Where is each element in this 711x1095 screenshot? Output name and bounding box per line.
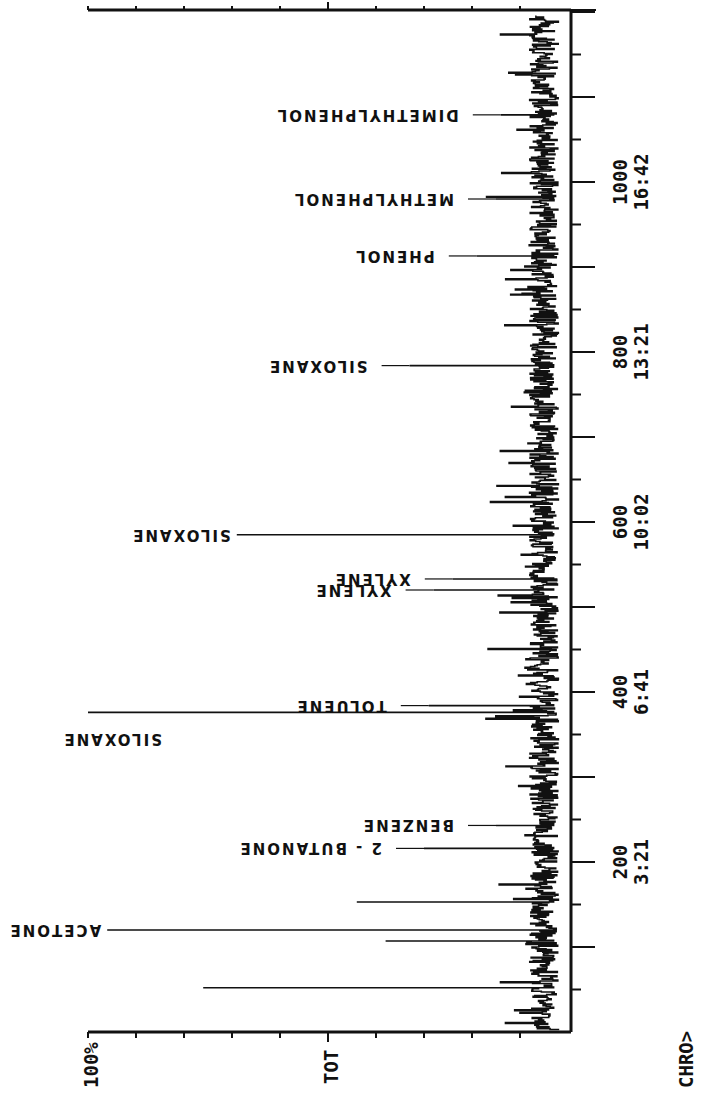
scan-tick-label: 200 — [609, 845, 631, 879]
chromatogram-chart: ACETONE2 - BUTANONEBENZENESILOXANETOLUEN… — [0, 0, 711, 1095]
peak-label: SILOXANE — [62, 730, 162, 748]
intensity-axis-ticks — [88, 2, 520, 1042]
peak-label: SILOXANE — [268, 357, 368, 375]
scan-tick-label: 400 — [609, 675, 631, 709]
chart-title: CHRO> — [675, 1031, 697, 1088]
time-tick-label: 10:02 — [630, 493, 652, 550]
peak-labels: ACETONE2 - BUTANONEBENZENESILOXANETOLUEN… — [9, 106, 501, 939]
scan-tick-label: 600 — [609, 505, 631, 539]
time-tick-label: 3:21 — [630, 839, 652, 885]
trace-type-label: TOT — [320, 1050, 342, 1084]
peak-label: PHENOL — [354, 247, 435, 265]
peak-label: METHYLPHENOL — [293, 190, 454, 208]
scan-tick-label: 800 — [609, 335, 631, 369]
time-tick-label: 16:42 — [630, 153, 652, 210]
peak-label: XYLENE — [334, 570, 411, 588]
scan-tick-label: 1000 — [609, 159, 631, 205]
peak-label: SILOXANE — [131, 526, 231, 544]
plot-frame — [88, 10, 596, 1032]
scan-axis-ticks — [571, 12, 595, 990]
peak-label: 2 - BUTANONE — [238, 839, 382, 857]
peak-label: TOLUENE — [296, 697, 387, 715]
scan-tick-labels: 2003:214006:4160010:0280013:21100016:42 — [609, 153, 652, 884]
time-tick-label: 6:41 — [630, 669, 652, 715]
peak-label: BENZENE — [362, 816, 454, 834]
intensity-max-label: 100% — [80, 1042, 102, 1088]
peak-label: ACETONE — [9, 921, 102, 939]
peak-label: DIMETHYLPHENOL — [276, 106, 459, 124]
tic-trace — [88, 16, 558, 1030]
time-tick-label: 13:21 — [630, 323, 652, 380]
